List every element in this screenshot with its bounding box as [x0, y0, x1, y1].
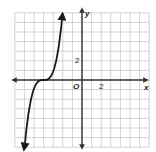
cubic-function-graph: y x O 2 2 — [0, 0, 156, 152]
origin-label: O — [73, 82, 80, 91]
x-axis-label: x — [143, 83, 149, 92]
x-tick-label: 2 — [99, 82, 104, 91]
y-tick-label: 2 — [75, 56, 80, 65]
y-axis-label: y — [84, 9, 90, 18]
